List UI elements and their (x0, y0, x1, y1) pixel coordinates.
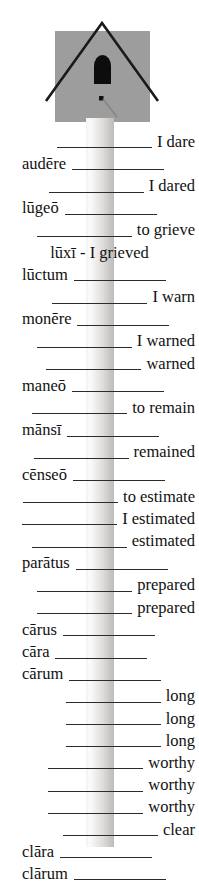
answer-blank-line[interactable] (22, 524, 117, 525)
worksheet-row: to grieve (0, 218, 199, 240)
worksheet-row: audēre (0, 151, 199, 173)
vocabulary-worksheet: I dareaudēreI daredlūgeōto grievelūxī - … (0, 129, 199, 883)
answer-blank-line[interactable] (32, 547, 127, 548)
answer-blank-line[interactable] (57, 147, 152, 148)
answer-blank-line[interactable] (55, 658, 147, 659)
answer-blank-line[interactable] (72, 169, 164, 170)
worksheet-row: cāra (0, 639, 199, 661)
english-meaning: long (166, 711, 195, 729)
latin-word: cāra (22, 644, 49, 662)
latin-word: maneō (22, 378, 66, 396)
english-meaning: worthy (148, 777, 195, 795)
latin-word: cēnseō (22, 467, 67, 485)
worksheet-row: warned (0, 351, 199, 373)
worksheet-row: clāra (0, 839, 199, 861)
answer-blank-line[interactable] (37, 236, 132, 237)
worksheet-row: worthy (0, 772, 199, 794)
worksheet-row: prepared (0, 573, 199, 595)
worksheet-row: monēre (0, 307, 199, 329)
english-meaning: prepared (137, 577, 195, 595)
worksheet-row: cārum (0, 662, 199, 684)
worksheet-row: clārum (0, 861, 199, 883)
answer-blank-line[interactable] (37, 613, 132, 614)
english-meaning: I dare (157, 134, 195, 152)
latin-word: cārum (22, 666, 63, 684)
worksheet-row: to remain (0, 395, 199, 417)
answer-blank-line[interactable] (60, 857, 152, 858)
worksheet-row: lūxī - I grieved (0, 240, 199, 262)
answer-blank-line[interactable] (72, 391, 164, 392)
english-meaning: remained (134, 444, 195, 462)
english-meaning: warned (146, 356, 195, 374)
answer-blank-line[interactable] (34, 458, 129, 459)
answer-blank-line[interactable] (66, 702, 161, 703)
worksheet-row: remained (0, 440, 199, 462)
worksheet-row: prepared (0, 595, 199, 617)
latin-word: clārum (22, 866, 68, 883)
answer-blank-line[interactable] (52, 303, 147, 304)
answer-blank-line[interactable] (37, 347, 132, 348)
answer-blank-line[interactable] (46, 369, 141, 370)
answer-blank-line[interactable] (67, 436, 159, 437)
answer-blank-line[interactable] (23, 502, 118, 503)
english-meaning: I estimated (122, 511, 195, 529)
worksheet-row: I dare (0, 129, 199, 151)
answer-blank-line[interactable] (74, 879, 166, 880)
english-meaning: to grieve (137, 222, 195, 240)
answer-blank-line[interactable] (63, 635, 155, 636)
english-meaning: worthy (148, 755, 195, 773)
latin-word: mānsī (22, 422, 61, 440)
worksheet-row: lūgeō (0, 196, 199, 218)
answer-blank-line[interactable] (49, 192, 144, 193)
latin-word: audēre (22, 156, 66, 174)
english-meaning: to estimate (123, 489, 195, 507)
worksheet-row: long (0, 684, 199, 706)
worksheet-row: cārus (0, 617, 199, 639)
answer-blank-line[interactable] (37, 591, 132, 592)
worksheet-row: I estimated (0, 506, 199, 528)
answer-blank-line[interactable] (66, 746, 161, 747)
latin-word: cārus (22, 622, 57, 640)
worksheet-row: lūctum (0, 262, 199, 284)
answer-blank-line[interactable] (73, 480, 165, 481)
answer-blank-line[interactable] (63, 835, 158, 836)
answer-blank-line[interactable] (48, 813, 143, 814)
english-meaning: estimated (132, 533, 195, 551)
answer-blank-line[interactable] (76, 569, 168, 570)
worksheet-row: I dared (0, 173, 199, 195)
latin-word: lūctum (22, 267, 68, 285)
worksheet-row: to estimate (0, 484, 199, 506)
answer-blank-line[interactable] (74, 280, 166, 281)
latin-word: clāra (22, 844, 54, 862)
birdhouse-entrance-hole (94, 55, 111, 84)
english-meaning: prepared (137, 600, 195, 618)
worksheet-row: estimated (0, 528, 199, 550)
worksheet-row: long (0, 706, 199, 728)
english-meaning: clear (163, 822, 195, 840)
latin-word: parātus (22, 555, 70, 573)
worksheet-row: I warn (0, 284, 199, 306)
worksheet-row: clear (0, 817, 199, 839)
english-meaning: worthy (148, 799, 195, 817)
english-meaning: I warned (137, 333, 195, 351)
answer-blank-line[interactable] (77, 325, 169, 326)
english-meaning: I dared (149, 178, 195, 196)
answer-blank-line[interactable] (48, 768, 143, 769)
answer-blank-line[interactable] (69, 680, 161, 681)
latin-word: monēre (22, 311, 71, 329)
english-meaning: long (166, 733, 195, 751)
worksheet-row: long (0, 728, 199, 750)
answer-blank-line[interactable] (66, 724, 161, 725)
worksheet-row: I warned (0, 329, 199, 351)
latin-word: lūgeō (22, 200, 59, 218)
worksheet-row: worthy (0, 750, 199, 772)
answer-blank-line[interactable] (48, 791, 143, 792)
answer-blank-line[interactable] (32, 413, 127, 414)
english-meaning: I warn (152, 289, 195, 307)
english-meaning: long (166, 688, 195, 706)
answer-blank-line[interactable] (65, 214, 157, 215)
worksheet-row: mānsī (0, 417, 199, 439)
worksheet-row: cēnseō (0, 462, 199, 484)
worksheet-row: maneō (0, 373, 199, 395)
latin-word-with-meaning: lūxī - I grieved (50, 245, 149, 263)
